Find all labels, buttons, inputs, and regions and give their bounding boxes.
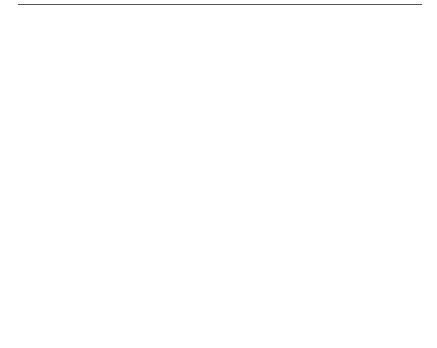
chart-canvas	[0, 0, 437, 348]
